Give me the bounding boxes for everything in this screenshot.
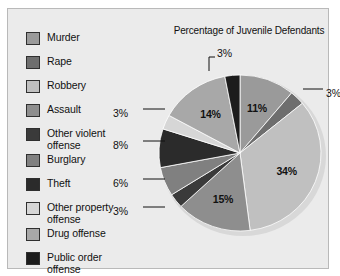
pie-label-other-violent-offense: 3% — [113, 107, 128, 119]
legend-swatch-icon — [26, 56, 40, 69]
legend-item-label: Burglary — [47, 153, 85, 165]
pie-label-assault: 15% — [213, 193, 234, 205]
legend-item-label: Rape — [47, 55, 72, 67]
legend-swatch-icon — [26, 154, 40, 167]
pie-label-rape: 3% — [326, 87, 340, 99]
legend-item-public-order[interactable]: Public order offense — [26, 251, 146, 276]
legend-item-label: Robbery — [47, 79, 86, 91]
chart-title: Percentage of Juvenile Defendants — [158, 25, 340, 36]
legend-item-label: Public order offense — [47, 251, 102, 275]
legend-swatch-icon — [26, 178, 40, 191]
legend-swatch-icon — [26, 252, 40, 265]
legend-swatch-icon — [26, 202, 40, 215]
pie-label-drug-offense: 14% — [200, 108, 221, 120]
legend-item-label: Other violent offense — [47, 127, 105, 151]
legend-item-label: Drug offense — [47, 227, 106, 239]
legend-item-other-violent[interactable]: Other violent offense — [26, 127, 146, 153]
pie-svg: 11%34%15%14% 3%3%3%8%6%3% — [151, 61, 336, 246]
pie-label-public-order-offense: 3% — [217, 47, 232, 59]
legend-item-label: Murder — [47, 31, 80, 43]
pie-label-theft: 8% — [113, 139, 128, 151]
pie-chart: 11%34%15%14% 3%3%3%8%6%3% — [151, 61, 336, 246]
legend-swatch-icon — [26, 228, 40, 241]
legend-item-label: Assault — [47, 103, 81, 115]
legend-item-murder[interactable]: Murder — [26, 31, 146, 55]
legend-swatch-icon — [26, 32, 40, 45]
legend-item-theft[interactable]: Theft — [26, 177, 146, 201]
legend-item-label: Theft — [47, 177, 70, 189]
pie-label-other-property-offense: 3% — [113, 205, 128, 217]
chart-panel: MurderRapeRobberyAssaultOther violent of… — [7, 8, 329, 269]
legend-swatch-icon — [26, 128, 40, 141]
pie-label-murder: 11% — [247, 102, 268, 114]
legend-item-rape[interactable]: Rape — [26, 55, 146, 79]
pie-label-burglary: 6% — [113, 177, 128, 189]
legend-swatch-icon — [26, 104, 40, 117]
legend-item-drug-offense[interactable]: Drug offense — [26, 227, 146, 251]
legend-item-label: Other property offense — [47, 201, 113, 225]
legend-swatch-icon — [26, 80, 40, 93]
pie-slices — [159, 75, 321, 231]
legend-item-robbery[interactable]: Robbery — [26, 79, 146, 103]
legend-item-burglary[interactable]: Burglary — [26, 153, 146, 177]
pie-label-robbery: 34% — [276, 165, 297, 177]
legend-item-other-property[interactable]: Other property offense — [26, 201, 146, 227]
chart-legend: MurderRapeRobberyAssaultOther violent of… — [26, 31, 146, 276]
legend-item-assault[interactable]: Assault — [26, 103, 146, 127]
